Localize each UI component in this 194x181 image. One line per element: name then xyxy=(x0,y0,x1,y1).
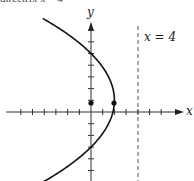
parabola-curve xyxy=(43,18,115,181)
parabola-diagram xyxy=(0,0,194,181)
vertex-point xyxy=(111,100,116,105)
focus-point xyxy=(88,100,93,105)
x-axis-label: x xyxy=(186,105,193,117)
x-axis-arrow-icon xyxy=(175,109,184,115)
x-axis xyxy=(6,109,184,115)
y-axis-label: y xyxy=(87,6,94,18)
directrix-label: x = 4 xyxy=(144,31,176,43)
